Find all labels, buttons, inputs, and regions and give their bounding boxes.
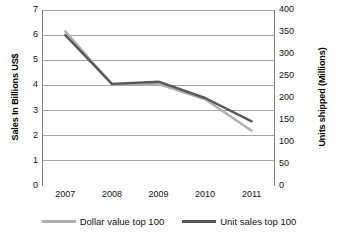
legend-color-swatch: [182, 220, 216, 223]
plot-svg: [42, 10, 275, 186]
x-axis-tick-2008: 2008: [92, 189, 132, 199]
y-axis-left-tick: 7: [24, 4, 38, 14]
y-axis-left-tick: 4: [24, 79, 38, 89]
x-axis-tick-2007: 2007: [45, 189, 85, 199]
y-axis-right-tick: 400: [279, 4, 305, 14]
legend-label: Dollar value top 100: [80, 216, 165, 227]
x-axis-tick-2009: 2009: [139, 189, 179, 199]
x-axis: 20072008200920102011: [42, 188, 276, 206]
series-line-unit-sales-top-100: [65, 35, 251, 121]
y-axis-right-tick: 200: [279, 92, 305, 102]
chart-container: Sales In Billions US$ Units shipped (Mil…: [0, 0, 338, 240]
y-axis-left: 76543210: [20, 0, 38, 240]
y-axis-right-tick: 350: [279, 26, 305, 36]
y-axis-left-title: Sales In Billions US$: [10, 12, 20, 182]
y-axis-left-tick: 3: [24, 105, 38, 115]
y-axis-right-tick: 50: [279, 158, 305, 168]
x-axis-tick-2010: 2010: [185, 189, 225, 199]
legend-label: Unit sales top 100: [220, 216, 296, 227]
y-axis-right: 400350300250200150100500: [279, 0, 305, 240]
y-axis-left-tick: 6: [24, 29, 38, 39]
legend-item[interactable]: Dollar value top 100: [42, 216, 165, 227]
y-axis-right-tick: 0: [279, 180, 305, 190]
y-axis-right-tick: 100: [279, 136, 305, 146]
legend-item[interactable]: Unit sales top 100: [182, 216, 296, 227]
y-axis-left-tick: 1: [24, 155, 38, 165]
y-axis-right-tick: 150: [279, 114, 305, 124]
y-axis-right-tick: 300: [279, 48, 305, 58]
legend-color-swatch: [42, 220, 76, 223]
y-axis-left-tick: 2: [24, 130, 38, 140]
y-axis-left-tick: 5: [24, 54, 38, 64]
y-axis-left-tick: 0: [24, 180, 38, 190]
chart-legend: Dollar value top 100Unit sales top 100: [0, 210, 338, 232]
x-axis-tick-2011: 2011: [232, 189, 272, 199]
y-axis-right-title: Units shipped (Millions): [317, 12, 327, 182]
plot-area: [42, 10, 275, 186]
y-axis-right-tick: 250: [279, 70, 305, 80]
